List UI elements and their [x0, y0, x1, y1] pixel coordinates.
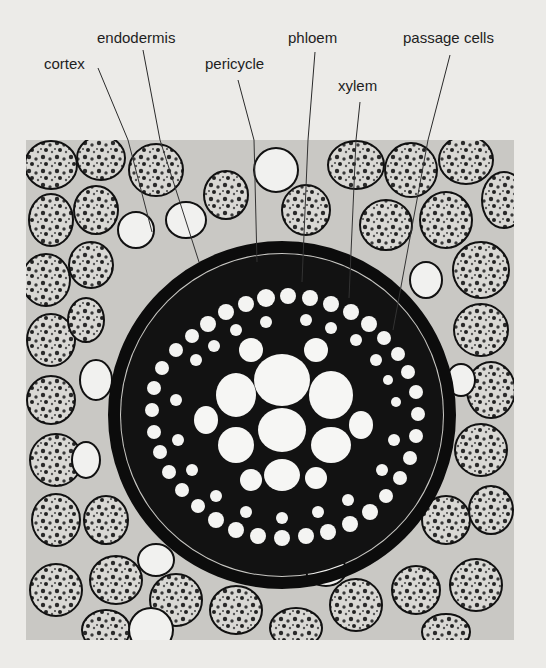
label-passage-cells: passage cells	[403, 30, 494, 45]
leader-lines	[0, 0, 546, 668]
root-cross-section-figure: cortex endodermis pericycle phloem xylem…	[0, 0, 546, 668]
label-cortex: cortex	[44, 56, 85, 71]
pericycle-leader-line	[238, 80, 254, 140]
label-phloem: phloem	[288, 30, 337, 45]
passage-cells-leader-line	[428, 55, 450, 140]
cortex-leader-line	[98, 68, 128, 140]
label-endodermis: endodermis	[97, 30, 175, 45]
phloem-leader-line	[308, 52, 315, 140]
endodermis-leader-line	[143, 50, 160, 140]
xylem-leader-line	[356, 102, 360, 140]
label-xylem: xylem	[338, 78, 377, 93]
label-pericycle: pericycle	[205, 56, 264, 71]
